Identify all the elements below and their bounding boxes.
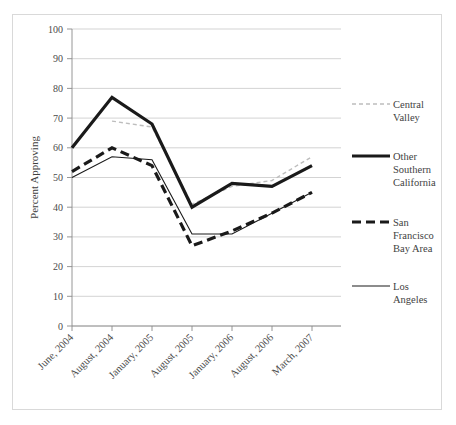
y-axis-title-group: Percent Approving	[28, 136, 40, 219]
y-axis-title: Percent Approving	[28, 136, 40, 219]
chart-figure: 0102030405060708090100 June, 2004August,…	[0, 0, 456, 425]
line-chart: 0102030405060708090100 June, 2004August,…	[0, 0, 456, 425]
legend-label-other-southern-california: Other	[393, 151, 417, 162]
legend-label-central-valley: Central	[393, 99, 424, 110]
legend-label-san-francisco-bay-area: Francisco	[393, 230, 434, 241]
y-tick-label: 40	[53, 202, 63, 213]
legend-group: CentralValleyOtherSouthernCaliforniaSanF…	[352, 99, 436, 305]
data-series-group	[72, 97, 312, 246]
y-tick-label: 30	[53, 231, 63, 242]
x-tick-label: March, 2007	[270, 332, 316, 378]
y-tick-label: 70	[53, 113, 63, 124]
legend-label-los-angeles: Los	[393, 281, 409, 292]
legend-label-central-valley: Valley	[393, 112, 421, 123]
y-tick-label: 10	[53, 291, 63, 302]
y-tick-labels-group: 0102030405060708090100	[48, 24, 63, 332]
legend-label-los-angeles: Angeles	[393, 294, 427, 305]
y-tick-label: 60	[53, 142, 63, 153]
y-tick-label: 90	[53, 53, 63, 64]
legend-label-san-francisco-bay-area: San	[393, 217, 410, 228]
legend-label-san-francisco-bay-area: Bay Area	[393, 243, 433, 254]
legend-label-other-southern-california: Southern	[393, 164, 432, 175]
x-tick-label: June, 2004	[35, 331, 75, 371]
gridlines-group	[67, 29, 341, 326]
y-tick-label: 100	[48, 24, 63, 35]
y-tick-label: 0	[58, 321, 63, 332]
y-tick-label: 20	[53, 261, 63, 272]
y-tick-label: 80	[53, 83, 63, 94]
series-line-central-valley	[112, 121, 312, 204]
series-line-other-southern-california	[72, 97, 312, 207]
y-tick-label: 50	[53, 172, 63, 183]
series-line-san-francisco-bay-area	[72, 148, 312, 246]
legend-label-other-southern-california: California	[393, 177, 436, 188]
x-tick-labels-group: June, 2004August, 2004January, 2005Augus…	[35, 331, 315, 380]
x-tick-marks-group	[72, 326, 312, 331]
series-line-los-angeles	[72, 157, 312, 234]
